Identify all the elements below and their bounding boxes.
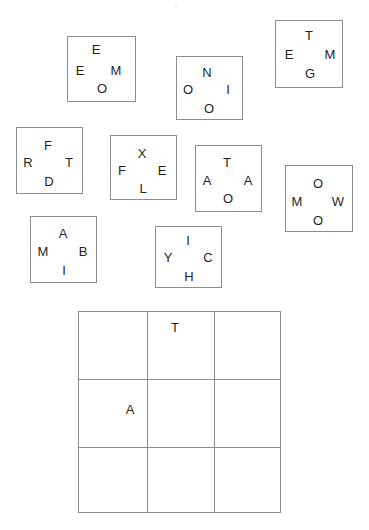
box-letter: M [38, 245, 49, 258]
box-letter: E [92, 43, 101, 56]
box-letter: E [285, 48, 294, 61]
grid-cell-r2-c1[interactable] [147, 447, 215, 514]
grid-cell-r0-c0[interactable] [79, 312, 147, 379]
box-letter: E [158, 164, 167, 177]
box-letter: F [118, 164, 126, 177]
grid-cell-r2-c0[interactable] [79, 447, 147, 514]
grid-cell-r1-c0[interactable] [79, 379, 147, 446]
box-letter: N [202, 66, 211, 79]
box-letter: A [203, 174, 212, 187]
box-letter: O [313, 214, 323, 227]
box-letter: D [44, 175, 53, 188]
box-letter: T [65, 156, 73, 169]
box-letter: L [139, 182, 146, 195]
answer-grid[interactable] [78, 311, 281, 513]
box-letter: G [305, 67, 315, 80]
box-letter: M [292, 195, 303, 208]
box-letter: I [62, 264, 66, 277]
box-letter: B [79, 245, 88, 258]
box-letter: C [203, 251, 212, 264]
box-letter: O [223, 192, 233, 205]
grid-cell-r1-c2[interactable] [214, 379, 282, 446]
box-letter: O [204, 102, 214, 115]
box-letter: M [111, 64, 122, 77]
grid-cell-r2-c2[interactable] [214, 447, 282, 514]
box-letter: T [223, 156, 231, 169]
box-letter: F [44, 139, 52, 152]
box-letter: E [76, 64, 85, 77]
grid-cell-r0-c1[interactable] [147, 312, 215, 379]
box-letter: M [325, 48, 336, 61]
box-letter: X [138, 147, 147, 160]
box-letter: O [183, 83, 193, 96]
box-letter: Y [164, 251, 173, 264]
box-letter: I [186, 234, 190, 247]
box-letter: H [184, 270, 193, 283]
box-letter: W [332, 195, 344, 208]
box-letter: T [305, 29, 313, 42]
box-letter: R [23, 156, 32, 169]
top-speck-mark [175, 3, 177, 8]
box-letter: O [313, 177, 323, 190]
box-letter: I [226, 83, 230, 96]
puzzle-canvas: EEMONOIOTEMGFRTDXFELTAAOOMWOAMBIIYCHTA [0, 0, 369, 530]
box-letter: A [59, 227, 68, 240]
grid-cell-r1-c1[interactable] [147, 379, 215, 446]
grid-cell-r0-c2[interactable] [214, 312, 282, 379]
grid-placed-letter: A [126, 403, 135, 416]
box-letter: O [97, 82, 107, 95]
box-letter: A [244, 174, 253, 187]
grid-placed-letter: T [171, 321, 179, 334]
